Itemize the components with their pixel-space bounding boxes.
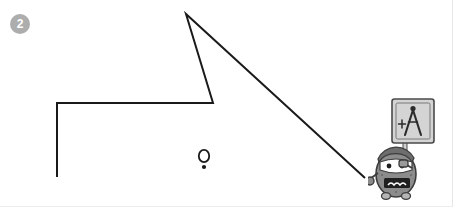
- point-marker-circle: [199, 150, 209, 162]
- geometry-polyline: [57, 14, 365, 178]
- mascot-eye-left: [387, 164, 392, 169]
- mascot-foot-right: [402, 193, 411, 200]
- point-marker: [199, 150, 209, 169]
- point-marker-dot: [202, 165, 206, 169]
- compass-mascot: [368, 96, 438, 202]
- mascot-mouth: [384, 178, 410, 188]
- mascot-foot-left: [382, 193, 391, 200]
- drawing-canvas[interactable]: 2: [0, 0, 453, 207]
- sign-board: [392, 99, 434, 143]
- compass-sign: [392, 99, 434, 143]
